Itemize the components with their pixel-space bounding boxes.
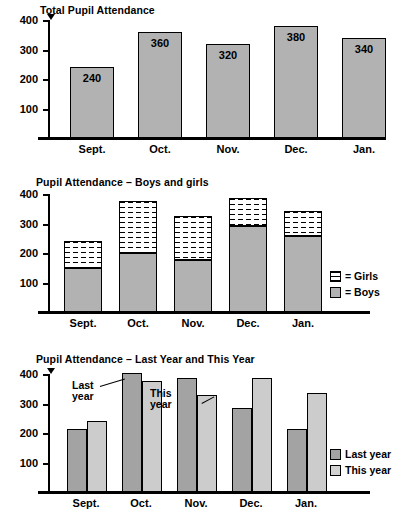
chart2-ytick-label-300: 300: [20, 218, 38, 230]
chart2-seg-boys-nov: [174, 260, 212, 312]
girls-swatch-icon: [330, 271, 341, 282]
chart2-seg-girls-sept: [64, 241, 102, 268]
chart3-bar-last-nov: [177, 378, 197, 492]
chart3-annotation-this-year: This year: [150, 388, 172, 410]
chart1-ytick-label-400: 400: [20, 14, 38, 26]
chart1-xlabel-dec: Dec.: [284, 143, 307, 155]
chart3-annotation-this-year-line2: year: [150, 399, 172, 410]
chart2-ytick-label-400: 400: [20, 188, 38, 200]
chart3-xlabel-jan: Jan.: [295, 497, 317, 509]
chart3-ytick-100: 100: [43, 463, 49, 465]
chart-last-year-and-this-year: Pupil Attendance – Last Year and This Ye…: [0, 350, 403, 530]
chart2-ytick-100: 100: [43, 283, 49, 285]
chart2-xlabel-dec: Dec.: [236, 317, 259, 329]
chart3-bar-this-nov: [197, 395, 217, 492]
chart2-ytick-label-200: 200: [20, 247, 38, 259]
chart3-annotation-last-year: Last year: [72, 380, 94, 402]
chart2-title: Pupil Attendance – Boys and girls: [36, 176, 209, 188]
chart1-bar-value-sept: 240: [71, 72, 113, 84]
chart2-bar-oct: [119, 201, 157, 312]
chart1-bar-value-oct: 360: [139, 37, 181, 49]
chart1-bar-value-nov: 320: [207, 49, 249, 61]
chart3-legend-label-this-year: This year: [345, 464, 391, 476]
chart2-ytick-200: 200: [43, 253, 49, 255]
chart1-ytick-200: 200: [43, 79, 49, 81]
chart2-xlabel-jan: Jan.: [292, 317, 314, 329]
chart3-plot-area: 100 200 300 400 Last year This year: [48, 374, 320, 492]
chart3-legend-item-last-year: Last year: [330, 446, 391, 462]
chart3-xlabel-sept: Sept.: [73, 497, 100, 509]
chart3-xlabel-nov: Nov.: [184, 497, 207, 509]
chart2-bar-sept: [64, 241, 102, 312]
boys-swatch-icon: [330, 287, 341, 298]
chart2-xlabel-oct: Oct.: [127, 317, 148, 329]
chart1-ytick-400: 400: [43, 20, 49, 22]
chart3-ytick-300: 300: [43, 404, 49, 406]
chart3-xlabel-dec: Dec.: [239, 497, 262, 509]
chart2-seg-girls-dec: [229, 198, 267, 226]
chart1-ytick-100: 100: [43, 109, 49, 111]
chart2-legend-item-boys: = Boys: [330, 284, 380, 300]
chart1-xlabel-nov: Nov.: [216, 143, 239, 155]
chart2-seg-boys-jan: [284, 236, 322, 312]
chart3-bar-this-dec: [252, 378, 272, 492]
chart2-legend-label-boys: = Boys: [345, 286, 380, 298]
chart3-bar-last-dec: [232, 408, 252, 492]
chart2-bar-dec: [229, 198, 267, 313]
chart3-ytick-label-300: 300: [20, 398, 38, 410]
chart2-legend: = Girls = Boys: [330, 268, 380, 300]
chart3-ytick-400: 400: [43, 374, 49, 376]
chart2-ytick-300: 300: [43, 224, 49, 226]
chart2-bar-nov: [174, 216, 212, 312]
chart2-xlabel-nov: Nov.: [181, 317, 204, 329]
chart2-ytick-400: 400: [43, 194, 49, 196]
chart3-legend: Last year This year: [330, 446, 391, 478]
chart1-ytick-label-200: 200: [20, 73, 38, 85]
chart1-bar-dec: 380: [274, 26, 318, 138]
chart3-legend-label-last-year: Last year: [345, 448, 391, 460]
chart1-title: Total Pupil Attendance: [40, 4, 155, 16]
chart1-bar-sept: 240: [70, 67, 114, 138]
chart3-bar-last-jan: [287, 429, 307, 492]
chart3-ytick-label-400: 400: [20, 368, 38, 380]
chart1-ytick-label-300: 300: [20, 44, 38, 56]
chart3-bar-this-sept: [87, 421, 107, 492]
chart1-ytick-300: 300: [43, 50, 49, 52]
chart2-seg-girls-oct: [119, 201, 157, 253]
last-year-swatch-icon: [330, 449, 341, 460]
chart2-seg-boys-dec: [229, 226, 267, 312]
chart2-bar-jan: [284, 211, 322, 312]
chart1-xlabel-sept: Sept.: [79, 143, 106, 155]
chart1-bar-value-jan: 340: [343, 43, 385, 55]
chart1-ytick-label-100: 100: [20, 103, 38, 115]
chart2-seg-boys-oct: [119, 253, 157, 312]
chart1-bar-value-dec: 380: [275, 31, 317, 43]
chart1-xlabel-jan: Jan.: [353, 143, 375, 155]
chart-total-pupil-attendance: Total Pupil Attendance 100 200 300 400 2…: [0, 0, 403, 170]
chart2-xlabel-sept: Sept.: [70, 317, 97, 329]
chart2-legend-label-girls: = Girls: [345, 270, 378, 282]
chart3-legend-item-this-year: This year: [330, 462, 391, 478]
chart2-legend-item-girls: = Girls: [330, 268, 380, 284]
this-year-swatch-icon: [330, 465, 341, 476]
chart2-ytick-label-100: 100: [20, 277, 38, 289]
chart2-seg-girls-jan: [284, 211, 322, 236]
chart3-bar-last-sept: [67, 429, 87, 492]
chart1-xlabel-oct: Oct.: [149, 143, 170, 155]
chart3-title: Pupil Attendance – Last Year and This Ye…: [36, 353, 255, 365]
chart2-plot-area: 100 200 300 400: [48, 194, 320, 312]
chart2-seg-girls-nov: [174, 216, 212, 260]
chart3-ytick-200: 200: [43, 433, 49, 435]
chart1-bar-nov: 320: [206, 44, 250, 138]
chart1-bar-oct: 360: [138, 32, 182, 138]
chart3-bar-last-oct: [122, 373, 142, 493]
chart3-ytick-label-100: 100: [20, 457, 38, 469]
chart1-bar-jan: 340: [342, 38, 386, 138]
chart3-ytick-label-200: 200: [20, 427, 38, 439]
chart2-seg-boys-sept: [64, 268, 102, 312]
chart1-plot-area: 100 200 300 400 240 360 320 380 340: [48, 20, 378, 138]
chart3-bar-this-jan: [307, 393, 327, 492]
chart3-annotation-last-year-line2: year: [72, 391, 94, 402]
chart-boys-and-girls: Pupil Attendance – Boys and girls 100 20…: [0, 172, 403, 348]
chart3-xlabel-oct: Oct.: [130, 497, 151, 509]
